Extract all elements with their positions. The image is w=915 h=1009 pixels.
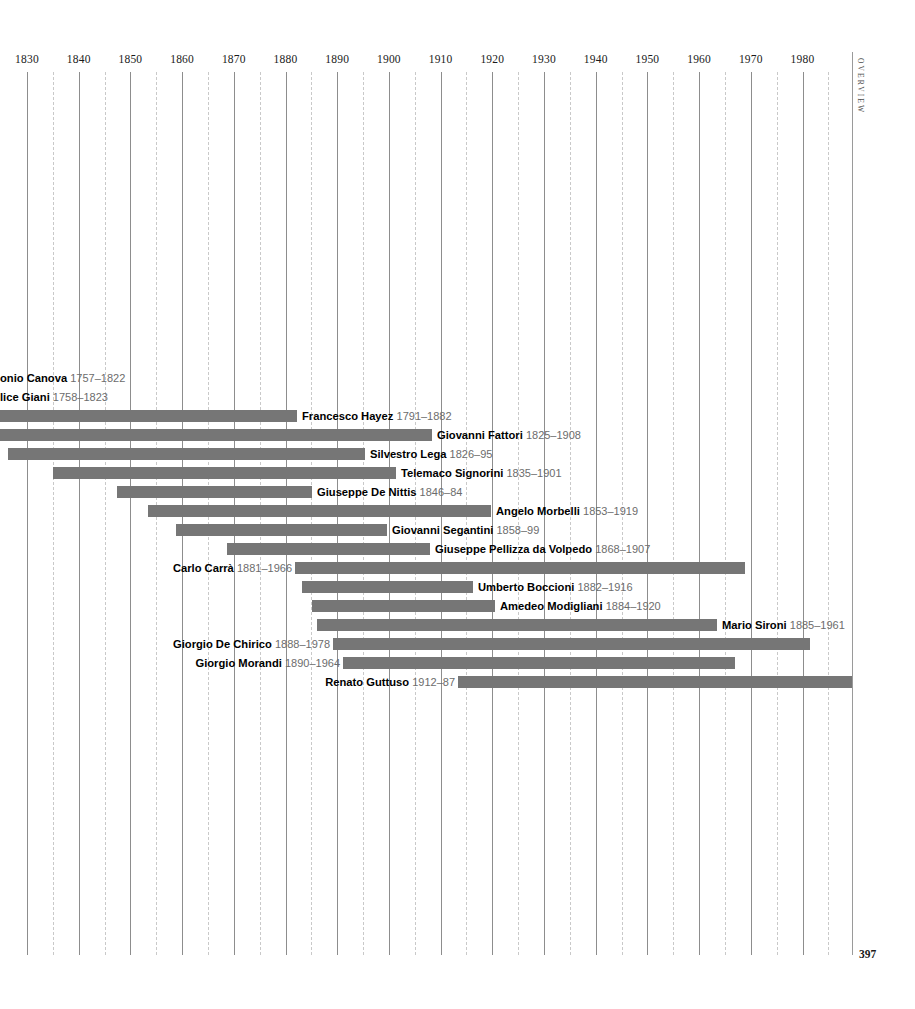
artist-name: Giuseppe De Nittis: [317, 486, 416, 498]
right-margin-rule: [852, 52, 853, 955]
axis-tick-mark: [79, 72, 80, 83]
timeline-row-label: Giovanni Fattori 1825–1908: [437, 426, 581, 444]
axis-tick-mark: [699, 72, 700, 83]
timeline-row[interactable]: Giuseppe De Nittis 1846–84: [0, 483, 915, 501]
axis-tick-label: 1920: [480, 53, 504, 65]
timeline-page: 1830184018501860187018801890190019101920…: [0, 0, 915, 1009]
artist-name: Amedeo Modigliani: [500, 600, 603, 612]
lifespan-bar[interactable]: [295, 562, 745, 574]
artist-dates: 1884–1920: [606, 600, 661, 612]
axis-tick-mark: [337, 72, 338, 83]
axis-tick-mark: [596, 72, 597, 83]
timeline-row[interactable]: Renato Guttuso 1912–87: [0, 673, 915, 691]
lifespan-bar[interactable]: [343, 657, 735, 669]
axis-tick-mark: [27, 72, 28, 83]
axis-tick-mark: [389, 72, 390, 83]
artist-dates: 1758–1823: [53, 391, 108, 403]
timeline-row[interactable]: Amedeo Modigliani 1884–1920: [0, 597, 915, 615]
artist-dates: 1825–1908: [526, 429, 581, 441]
axis-tick-label: 1930: [532, 53, 556, 65]
timeline-row[interactable]: Silvestro Lega 1826–95: [0, 445, 915, 463]
timeline-row-label: Amedeo Modigliani 1884–1920: [500, 597, 661, 615]
artist-dates: 1757–1822: [70, 372, 125, 384]
axis-tick-mark: [751, 72, 752, 83]
axis-tick-mark: [441, 72, 442, 83]
lifespan-bar[interactable]: [302, 581, 473, 593]
lifespan-bar[interactable]: [312, 600, 495, 612]
axis-tick-mark: [234, 72, 235, 83]
timeline-row-label: Francesco Hayez 1791–1882: [302, 407, 452, 425]
timeline-row-label: Telemaco Signorini 1835–1901: [401, 464, 562, 482]
lifespan-bar[interactable]: [8, 448, 365, 460]
artist-name: Mario Sironi: [722, 619, 787, 631]
axis-tick-label: 1970: [739, 53, 763, 65]
timeline-row[interactable]: lice Giani 1758–1823: [0, 388, 915, 406]
timeline-row[interactable]: Mario Sironi 1885–1961: [0, 616, 915, 634]
timeline-row[interactable]: Umberto Boccioni 1882–1916: [0, 578, 915, 596]
axis-tick-label: 1950: [635, 53, 659, 65]
timeline-row[interactable]: Giuseppe Pellizza da Volpedo 1868–1907: [0, 540, 915, 558]
artist-dates: 1791–1882: [397, 410, 452, 422]
axis-tick-label: 1890: [325, 53, 349, 65]
artist-name: lice Giani: [0, 391, 50, 403]
timeline-row[interactable]: Giorgio De Chirico 1888–1978: [0, 635, 915, 653]
artist-name: Umberto Boccioni: [478, 581, 574, 593]
timeline-row-label: Carlo Carrà 1881–1966: [173, 559, 292, 577]
axis-tick-mark: [803, 72, 804, 83]
artist-name: Silvestro Lega: [370, 448, 446, 460]
timeline-row[interactable]: Giovanni Segantini 1858–99: [0, 521, 915, 539]
lifespan-bar[interactable]: [333, 638, 810, 650]
lifespan-bar[interactable]: [317, 619, 717, 631]
artist-name: Carlo Carrà: [173, 562, 234, 574]
lifespan-bar[interactable]: [53, 467, 396, 479]
axis-tick-label: 1960: [687, 53, 711, 65]
page-number: 397: [859, 948, 876, 960]
artist-dates: 1835–1901: [506, 467, 561, 479]
axis-tick-label: 1880: [274, 53, 298, 65]
axis-tick-mark: [130, 72, 131, 83]
artist-dates: 1858–99: [496, 524, 539, 536]
artist-name: onio Canova: [0, 372, 67, 384]
timeline-row-label: Angelo Morbelli 1853–1919: [496, 502, 638, 520]
axis-tick-label: 1900: [377, 53, 401, 65]
axis-tick-mark: [286, 72, 287, 83]
artist-name: Francesco Hayez: [302, 410, 393, 422]
timeline-row[interactable]: Telemaco Signorini 1835–1901: [0, 464, 915, 482]
lifespan-bar[interactable]: [148, 505, 491, 517]
artist-name: Giorgio De Chirico: [173, 638, 272, 650]
timeline-row[interactable]: Francesco Hayez 1791–1882: [0, 407, 915, 425]
timeline-row-label: Silvestro Lega 1826–95: [370, 445, 492, 463]
axis-tick-label: 1860: [170, 53, 194, 65]
lifespan-bar[interactable]: [0, 429, 432, 441]
artist-name: Giorgio Morandi: [195, 657, 281, 669]
lifespan-bar[interactable]: [117, 486, 312, 498]
timeline-row[interactable]: Carlo Carrà 1881–1966: [0, 559, 915, 577]
artist-dates: 1846–84: [420, 486, 463, 498]
lifespan-bar[interactable]: [458, 676, 853, 688]
artist-dates: 1912–87: [412, 676, 455, 688]
axis-tick-label: 1980: [791, 53, 815, 65]
lifespan-bar[interactable]: [176, 524, 387, 536]
timeline-row-label: onio Canova 1757–1822: [0, 369, 125, 387]
axis-tick-label: 1910: [429, 53, 453, 65]
artist-name: Giuseppe Pellizza da Volpedo: [435, 543, 592, 555]
lifespan-bar[interactable]: [227, 543, 430, 555]
timeline-row-label: Giorgio Morandi 1890–1964: [195, 654, 340, 672]
timeline-row[interactable]: Giorgio Morandi 1890–1964: [0, 654, 915, 672]
timeline-row[interactable]: onio Canova 1757–1822: [0, 369, 915, 387]
timeline-row[interactable]: Angelo Morbelli 1853–1919: [0, 502, 915, 520]
timeline-row-label: Renato Guttuso 1912–87: [325, 673, 455, 691]
axis-tick-label: 1940: [584, 53, 608, 65]
axis-tick-label: 1850: [118, 53, 142, 65]
running-head: OVERVIEW: [856, 58, 865, 114]
axis-tick-mark: [544, 72, 545, 83]
artist-dates: 1888–1978: [275, 638, 330, 650]
timeline-row[interactable]: Giovanni Fattori 1825–1908: [0, 426, 915, 444]
artist-dates: 1826–95: [450, 448, 493, 460]
timeline-row-label: Giovanni Segantini 1858–99: [392, 521, 539, 539]
artist-name: Renato Guttuso: [325, 676, 409, 688]
axis-tick-mark: [492, 72, 493, 83]
artist-dates: 1881–1966: [237, 562, 292, 574]
lifespan-bar[interactable]: [0, 410, 297, 422]
axis-tick-label: 1840: [67, 53, 91, 65]
